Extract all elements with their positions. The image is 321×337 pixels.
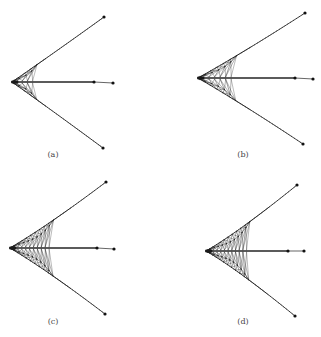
apex-node: [198, 76, 205, 80]
right-end-node: [111, 81, 114, 84]
apex-node: [10, 246, 17, 250]
top-end-node: [104, 180, 107, 183]
figure-background: [0, 0, 321, 337]
bottom-end-node: [101, 146, 104, 149]
panel-label: (b): [237, 150, 248, 159]
middle-node: [92, 80, 95, 83]
figure-canvas: (a) (b) (c) (d): [0, 0, 321, 337]
middle-node: [293, 76, 296, 79]
apex-node: [12, 80, 19, 84]
top-end-node: [303, 11, 306, 14]
bottom-end-node: [293, 314, 296, 317]
panel-label: (d): [237, 317, 248, 326]
top-end-node: [102, 15, 105, 18]
bottom-end-node: [301, 142, 304, 145]
bottom-end-node: [103, 312, 106, 315]
panel-label: (c): [48, 317, 59, 326]
middle-node: [95, 246, 98, 249]
apex-node: [206, 249, 213, 253]
panel-label: (a): [47, 150, 58, 159]
top-end-node: [295, 183, 298, 186]
right-end-node: [311, 77, 314, 80]
middle-node: [286, 249, 289, 252]
right-end-node: [302, 249, 305, 252]
right-end-node: [112, 247, 115, 250]
